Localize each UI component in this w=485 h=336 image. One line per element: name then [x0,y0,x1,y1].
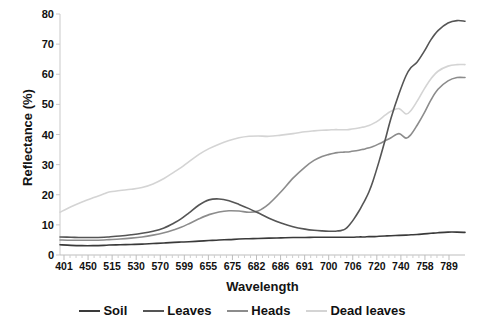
series-line-leaves [60,21,465,238]
legend-swatch-icon [306,310,327,312]
y-axis-tick-labels: 01020304050607080 [28,14,54,255]
series-line-dead-leaves [60,64,465,212]
legend-item-leaves[interactable]: Leaves [143,303,211,318]
legend-label: Heads [251,303,290,318]
plot-area [60,14,465,255]
y-tick-label: 70 [28,39,54,50]
legend-label: Soil [103,303,127,318]
plot-svg [60,14,465,255]
legend-item-dead-leaves[interactable]: Dead leaves [306,303,405,318]
y-tick-label: 50 [28,99,54,110]
reflectance-line-chart: Reflectance (%) 01020304050607080 401450… [0,0,485,336]
x-axis-title: Wavelength [60,279,465,294]
legend-label: Leaves [167,303,211,318]
y-tick-label: 20 [28,189,54,200]
y-tick-label: 80 [28,9,54,20]
chart-legend: SoilLeavesHeadsDead leaves [0,303,485,318]
legend-item-soil[interactable]: Soil [79,303,127,318]
legend-swatch-icon [227,310,248,312]
x-axis-tick-labels: 4014505155305705996556756826866917007067… [60,261,465,277]
y-tick-label: 0 [28,250,54,261]
x-tick-label: 789 [429,261,469,273]
legend-label: Dead leaves [330,303,405,318]
y-tick-label: 40 [28,129,54,140]
y-tick-label: 10 [28,219,54,230]
legend-item-heads[interactable]: Heads [227,303,290,318]
legend-swatch-icon [79,310,100,312]
y-tick-label: 30 [28,159,54,170]
legend-swatch-icon [143,310,164,312]
y-tick-label: 60 [28,69,54,80]
